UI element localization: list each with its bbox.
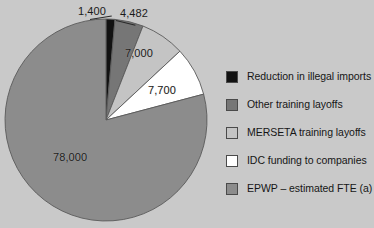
legend-item-label: EPWP – estimated FTE (a) [247, 183, 372, 195]
legend-item-label: Reduction in illegal imports [247, 71, 371, 83]
legend-item-label: IDC funding to companies [247, 155, 367, 167]
data-label-epwp-estimated-fte: 78,000 [53, 152, 87, 163]
data-label-reduction-in-illegal-imports: 1,400 [78, 6, 106, 17]
legend-item[interactable]: MERSETA training layoffs [226, 119, 374, 147]
data-label-merseta-training-layoffs: 7,000 [125, 48, 153, 59]
legend-item[interactable]: EPWP – estimated FTE (a) [226, 175, 374, 203]
chart-legend: Reduction in illegal importsOther traini… [226, 63, 374, 203]
legend-swatch-icon [226, 127, 238, 139]
legend-swatch-icon [226, 99, 238, 111]
pie-chart-figure: 1,400 4,482 7,000 7,700 78,000 Reduction… [0, 0, 374, 228]
pie-slices-group [5, 19, 207, 221]
legend-swatch-icon [226, 183, 238, 195]
pie-chart-svg [0, 0, 220, 228]
chart-plot-area: 1,400 4,482 7,000 7,700 78,000 [0, 0, 220, 228]
legend-item[interactable]: IDC funding to companies [226, 147, 374, 175]
legend-swatch-icon [226, 71, 238, 83]
legend-item-label: Other training layoffs [247, 99, 343, 111]
legend-item-label: MERSETA training layoffs [247, 127, 366, 139]
data-label-other-training-layoffs: 4,482 [120, 8, 148, 19]
data-label-idc-funding-to-companies: 7,700 [148, 85, 176, 96]
legend-item[interactable]: Reduction in illegal imports [226, 63, 374, 91]
legend-swatch-icon [226, 155, 238, 167]
legend-item[interactable]: Other training layoffs [226, 91, 374, 119]
